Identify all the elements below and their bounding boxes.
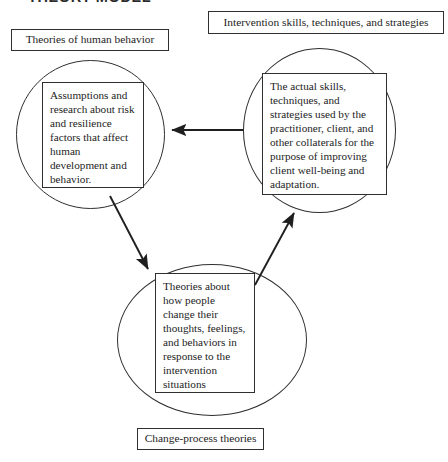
page-title: THEORY MODEL [28, 0, 151, 5]
caption-box-intervention-skills: Intervention skills, techniques, and str… [208, 11, 444, 34]
caption-box-human-behavior: Theories of human behavior [11, 29, 169, 51]
text-box-intervention-skills: The actual skills, techniques, and strat… [262, 73, 387, 195]
text-body-human-behavior: Assumptions and research about risk and … [50, 89, 135, 185]
caption-box-change-process: Change-process theories [137, 428, 264, 450]
theory-model-diagram: THEORY MODEL Theories of human behavior … [0, 0, 448, 462]
caption-label-change-process: Change-process theories [145, 433, 257, 444]
text-body-change-process: Theories about how people change their t… [163, 280, 245, 390]
text-body-intervention-skills: The actual skills, techniques, and strat… [270, 80, 374, 190]
text-box-change-process: Theories about how people change their t… [155, 273, 255, 393]
caption-label-human-behavior: Theories of human behavior [26, 34, 155, 45]
text-box-human-behavior: Assumptions and research about risk and … [42, 82, 144, 188]
caption-label-intervention-skills: Intervention skills, techniques, and str… [224, 17, 429, 28]
arrow-behavior-to-change-process [110, 196, 148, 269]
